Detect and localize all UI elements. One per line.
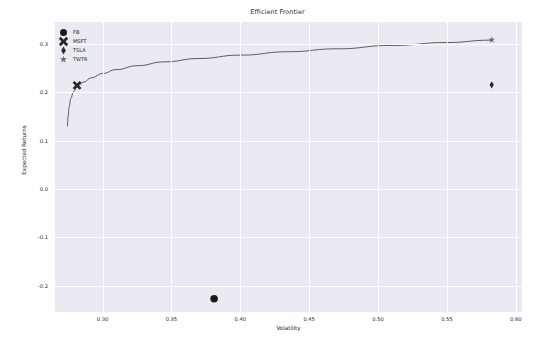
gridline-vertical (447, 22, 448, 312)
circle-marker-icon (58, 28, 69, 37)
x-tick-label: 0.50 (372, 316, 384, 322)
gridline-horizontal (55, 189, 522, 190)
data-point-twtr (488, 36, 495, 42)
gridline-horizontal (55, 141, 522, 142)
legend-item-msft[interactable]: MSFT (58, 37, 88, 45)
legend-item-label: MSFT (73, 39, 86, 44)
legend-item-label: TSLA (73, 48, 86, 53)
y-axis-label: Expected Returns (21, 80, 27, 220)
x-tick-label: 0.35 (166, 316, 178, 322)
gridline-vertical (103, 22, 104, 312)
star-marker-icon (58, 55, 69, 64)
chart-data-layer (55, 22, 522, 312)
gridline-vertical (378, 22, 379, 312)
gridline-vertical (240, 22, 241, 312)
gridline-horizontal (55, 286, 522, 287)
legend-item-fb[interactable]: FB (58, 28, 88, 36)
diamond-marker-icon (58, 46, 69, 55)
x-tick-label: 0.60 (510, 316, 522, 322)
plot-area (55, 22, 522, 312)
x-tick-label: 0.45 (303, 316, 315, 322)
y-tick-label: -0.2 (48, 283, 58, 289)
y-tick-label: 0.0 (48, 186, 56, 192)
gridline-horizontal (55, 44, 522, 45)
y-tick-label: 0.1 (48, 138, 56, 144)
y-tick-label: 0.3 (48, 41, 56, 47)
gridline-vertical (171, 22, 172, 312)
gridline-horizontal (55, 92, 522, 93)
x-tick-label: 0.55 (441, 316, 453, 322)
x-axis-label: Volatility (55, 325, 522, 331)
x-tick-label: 0.40 (234, 316, 246, 322)
chart-figure: Efficient Frontier 0.300.350.400.450.500… (0, 0, 555, 347)
x-tick-label: 0.30 (97, 316, 109, 322)
data-point-tsla (490, 81, 494, 88)
legend-item-label: FB (73, 30, 79, 35)
legend-item-tsla[interactable]: TSLA (58, 46, 88, 54)
y-tick-label: 0.2 (48, 89, 56, 95)
data-point-fb (210, 295, 218, 303)
legend-item-label: TWTR (73, 57, 88, 62)
chart-title: Efficient Frontier (0, 8, 555, 16)
chart-legend: FBMSFTTSLATWTR (56, 26, 92, 66)
y-tick-label: -0.1 (48, 234, 58, 240)
legend-item-twtr[interactable]: TWTR (58, 56, 88, 64)
efficient-frontier-line (67, 40, 491, 126)
gridline-vertical (516, 22, 517, 312)
gridline-vertical (309, 22, 310, 312)
x-marker-icon (58, 37, 69, 46)
gridline-horizontal (55, 237, 522, 238)
